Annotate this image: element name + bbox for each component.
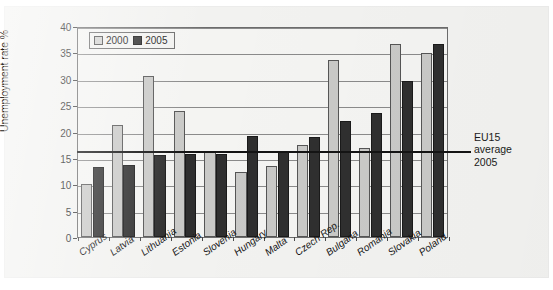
eu15-average-line: [77, 151, 471, 153]
chart-page: Unemployment rate % 0510152025303540 EU1…: [0, 0, 553, 290]
bar-slovakia-2005: [402, 81, 413, 237]
y-axis-tick-label: 15: [49, 153, 71, 164]
legend-label-2005: 2005: [145, 35, 167, 46]
y-axis-tick-label: 20: [49, 127, 71, 138]
dark-swatch-icon: [133, 36, 142, 45]
bar-bulgaria-2005: [340, 121, 351, 237]
bar-malta-2000: [266, 166, 277, 237]
x-axis-label-malta: Malta: [262, 235, 288, 258]
bar-latvia-2000: [112, 125, 123, 237]
bar-romania-2000: [359, 148, 370, 237]
x-axis-tick-mark: [140, 237, 141, 241]
bar-romania-2005: [371, 113, 382, 237]
y-axis-tick-label: 35: [49, 48, 71, 59]
plot-area: [77, 27, 448, 238]
legend-item-2005: 2005: [133, 35, 167, 46]
bar-bulgaria-2000: [328, 60, 339, 237]
bar-slovenia-2000: [204, 152, 215, 237]
bar-cyprus-2005: [93, 167, 104, 237]
y-axis-tick-label: 40: [49, 22, 71, 33]
legend-item-2000: 2000: [94, 35, 128, 46]
bar-estonia-2005: [185, 154, 196, 237]
y-axis-tick-label: 0: [49, 233, 71, 244]
legend-label-2000: 2000: [106, 35, 128, 46]
bar-poland-2000: [421, 53, 432, 237]
y-axis-title: Unemployment rate %: [0, 30, 10, 132]
scanned-figure-panel: Unemployment rate % 0510152025303540 EU1…: [4, 6, 549, 278]
eu15-label-line-3: 2005: [474, 156, 512, 169]
bar-estonia-2000: [174, 111, 185, 237]
x-axis-tick-mark: [449, 237, 450, 241]
x-axis-tick-mark: [78, 237, 79, 241]
chart-legend: 2000 2005: [89, 32, 175, 49]
light-swatch-icon: [94, 36, 103, 45]
x-axis-tick-mark: [294, 237, 295, 241]
bar-hungary-2000: [235, 172, 246, 237]
y-axis-tick-label: 10: [49, 180, 71, 191]
bar-slovakia-2000: [390, 44, 401, 237]
eu15-label-line-2: average: [474, 143, 512, 156]
eu15-label-line-1: EU15: [474, 131, 512, 144]
y-axis-tick-label: 25: [49, 101, 71, 112]
y-axis-tick-label: 5: [49, 206, 71, 217]
bar-lithuania-2005: [154, 155, 165, 237]
bar-cyprus-2000: [81, 184, 92, 237]
bar-lithuania-2000: [143, 76, 154, 237]
bar-series-container: [78, 28, 447, 237]
eu15-average-label: EU15 average 2005: [474, 131, 512, 169]
bar-slovenia-2005: [216, 154, 227, 237]
y-axis-tick-label: 30: [49, 74, 71, 85]
y-axis-tick-mark: [73, 238, 77, 239]
bar-latvia-2005: [123, 165, 134, 237]
bar-poland-2005: [433, 44, 444, 237]
bar-czech-rep-2000: [297, 145, 308, 237]
bar-malta-2005: [278, 152, 289, 237]
